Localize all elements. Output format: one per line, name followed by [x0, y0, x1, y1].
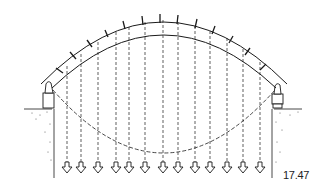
soil-stipple [32, 112, 299, 163]
arch-diagram [0, 0, 331, 192]
pressure-line [53, 90, 275, 153]
arch-voussoirs [41, 14, 287, 88]
figure-number: 17.47 [283, 169, 309, 181]
load-arrows [62, 162, 265, 173]
